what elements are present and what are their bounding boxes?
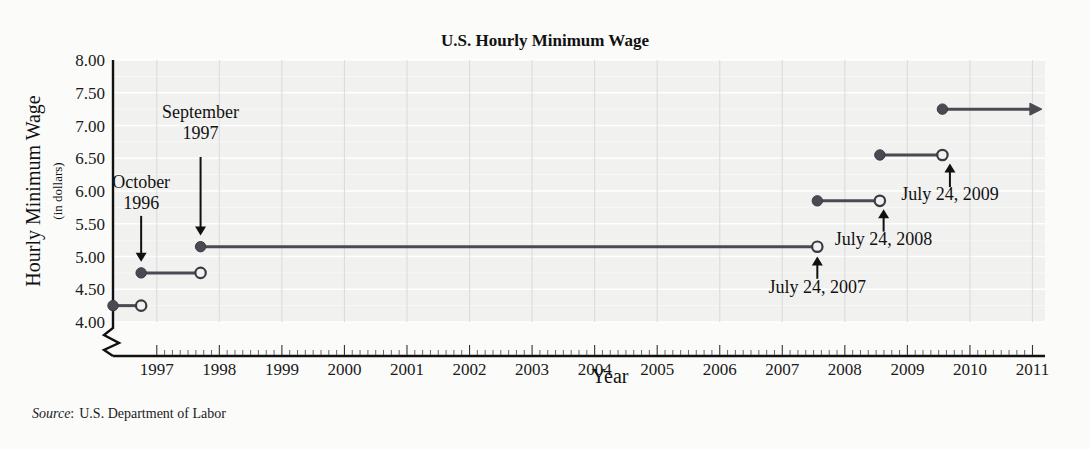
y-axis-title: Hourly Minimum Wage	[22, 95, 45, 286]
closed-endpoint-dot	[108, 300, 118, 310]
open-endpoint-dot	[195, 268, 205, 278]
annotation-label-line2: 1996	[123, 193, 159, 213]
open-endpoint-dot	[136, 300, 146, 310]
x-tick-label: 2006	[703, 360, 737, 379]
closed-endpoint-dot	[875, 150, 885, 160]
y-tick-label: 7.00	[75, 117, 105, 136]
open-endpoint-dot	[937, 150, 947, 160]
x-tick-label: 2010	[953, 360, 987, 379]
x-tick-label: 1998	[202, 360, 236, 379]
y-axis-subtitle: (in dollars)	[50, 162, 65, 219]
x-tick-label: 2009	[890, 360, 924, 379]
open-endpoint-dot	[812, 241, 822, 251]
x-tick-label: 2008	[828, 360, 862, 379]
closed-endpoint-dot	[937, 104, 947, 114]
chart-canvas: U.S. Hourly Minimum Wage 8.007.507.006.5…	[0, 0, 1090, 449]
y-tick-label: 6.50	[75, 149, 105, 168]
source-note: Source:U.S. Department of Labor	[32, 406, 226, 421]
y-tick-label: 5.00	[75, 248, 105, 267]
closed-endpoint-dot	[195, 241, 205, 251]
source-separator: :	[70, 406, 74, 421]
x-axis-title: Year	[592, 365, 629, 387]
y-axis-title-group: Hourly Minimum Wage	[22, 95, 45, 286]
x-tick-label: 2001	[390, 360, 424, 379]
closed-endpoint-dot	[812, 196, 822, 206]
y-tick-label: 4.50	[75, 280, 105, 299]
annotation-label-line2: 1997	[183, 123, 219, 143]
annotation-label: October	[112, 172, 170, 192]
source-body-label: U.S. Department of Labor	[79, 406, 226, 421]
annotation-label: July 24, 2007	[769, 277, 867, 297]
x-tick-label: 1999	[265, 360, 299, 379]
annotation-label: July 24, 2009	[901, 184, 999, 204]
y-tick-labels: 8.007.507.006.506.005.505.004.504.00	[75, 51, 105, 332]
x-tick-label: 2002	[453, 360, 487, 379]
closed-endpoint-dot	[136, 268, 146, 278]
y-tick-label: 4.00	[75, 313, 105, 332]
x-tick-label: 2007	[765, 360, 800, 379]
x-tick-label: 2000	[327, 360, 361, 379]
minimum-wage-figure: U.S. Hourly Minimum Wage 8.007.507.006.5…	[0, 0, 1090, 449]
x-tick-label: 2005	[640, 360, 674, 379]
y-tick-label: 6.00	[75, 182, 105, 201]
open-endpoint-dot	[875, 196, 885, 206]
y-tick-label: 5.50	[75, 215, 105, 234]
y-tick-label: 7.50	[75, 84, 105, 103]
annotation-label: July 24, 2008	[835, 229, 933, 249]
y-tick-label: 8.00	[75, 51, 105, 70]
x-tick-label: 1997	[140, 360, 175, 379]
chart-title: U.S. Hourly Minimum Wage	[441, 31, 649, 50]
annotation-label: September	[162, 102, 239, 122]
x-tick-label: 2003	[515, 360, 549, 379]
y-axis-subtitle-group: (in dollars)	[50, 162, 65, 219]
source-prefix-label: Source	[32, 406, 70, 421]
x-tick-label: 2011	[1016, 360, 1049, 379]
